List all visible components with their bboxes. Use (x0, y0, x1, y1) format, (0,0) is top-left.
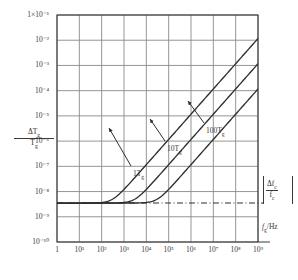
y-tick-label: 10⁻⁷ (9, 161, 49, 170)
ref-label-numerator-sub: c (274, 184, 276, 190)
x-axis-label-unit: /Hz (267, 222, 278, 231)
curve-label-sub: g (222, 131, 225, 137)
y-tick-label: 10⁻⁶ (9, 136, 49, 145)
ref-label-denominator-sub: c (272, 195, 274, 201)
y-axis-label-numerator: ΔT (28, 127, 37, 136)
y-tick-label: 10⁻⁹ (9, 212, 49, 221)
arrow-100Tg (188, 101, 204, 123)
grid-lines (57, 15, 258, 242)
curve-1Tg (57, 89, 258, 203)
data-curves (57, 39, 258, 204)
arrow-1Tg (109, 128, 131, 166)
x-tick-label: 10⁹ (243, 245, 273, 254)
curve-100Tg (57, 39, 258, 204)
annotation-arrows (109, 101, 204, 166)
reference-line-label: Δfc fc (266, 180, 278, 202)
curve-label-100Tg: 100Tg (206, 126, 225, 137)
axes-frame (57, 15, 258, 242)
curve-label-sub: g (179, 149, 182, 155)
y-tick-label: 10⁻³ (9, 60, 49, 69)
arrow-10Tg (150, 119, 165, 141)
curve-label-1Tg: 1Tg (133, 169, 144, 180)
ref-label-bar-left (263, 176, 264, 204)
curve-10Tg (57, 64, 258, 203)
y-tick-label: 10⁻⁵ (9, 111, 49, 120)
y-tick-label: 1×10⁻¹ (9, 10, 49, 19)
y-tick-label: 10⁻² (9, 35, 49, 44)
x-axis-label: fg/Hz (262, 222, 278, 233)
ref-label-bar-right (292, 176, 293, 204)
curve-label-sub: g (141, 174, 144, 180)
chart-figure: ΔTg Tg fg/Hz Δfc fc 1×10⁻¹10⁻²10⁻³10⁻⁴10… (0, 0, 298, 280)
y-tick-label: 10⁻⁴ (9, 86, 49, 95)
curve-label-10Tg: 10Tg (167, 144, 182, 155)
curve-label-main: 10T (167, 144, 179, 153)
curve-label-main: 100T (206, 126, 222, 135)
y-tick-label: 10⁻⁸ (9, 187, 49, 196)
